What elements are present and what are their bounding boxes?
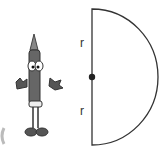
center-point <box>89 74 95 80</box>
crayon-mascot-icon <box>2 34 63 144</box>
semicircle-shape <box>92 9 158 145</box>
radius-label-upper: r <box>80 36 84 50</box>
diagram-canvas <box>0 0 160 148</box>
radius-label-lower: r <box>80 104 84 118</box>
